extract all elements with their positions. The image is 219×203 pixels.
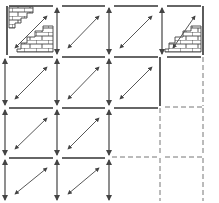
tile-r2-c3 [109, 57, 160, 106]
brick-wall-bottom-right [165, 26, 201, 52]
double-headed-diagonal-arrow-icon [68, 16, 99, 48]
double-headed-diagonal-arrow-icon [68, 168, 99, 194]
double-headed-diagonal-arrow-icon [15, 168, 47, 194]
tile-r3-c3 [109, 108, 160, 157]
tile-r3-c4 [165, 108, 203, 157]
tile-r4-c2 [57, 158, 105, 200]
tile-r2-c1 [5, 57, 53, 105]
tile-grid-diagram [0, 0, 219, 203]
tile-r2-c4 [165, 57, 203, 107]
tile-r1-c1 [7, 6, 53, 55]
tile-r1-c2 [57, 6, 105, 54]
tile-r2-c2 [57, 57, 105, 105]
tile-r3-c1 [5, 108, 53, 155]
tile-r1-c3 [109, 6, 158, 54]
brick-wall-top-left [9, 7, 33, 28]
double-headed-diagonal-arrow-icon [120, 16, 152, 48]
tile-r4-c1 [5, 158, 53, 200]
double-headed-diagonal-arrow-icon [68, 67, 99, 99]
double-headed-diagonal-arrow-icon [15, 118, 47, 149]
double-headed-diagonal-arrow-icon [120, 67, 152, 99]
tile-r4-c3 [109, 158, 160, 201]
double-headed-diagonal-arrow-icon [15, 67, 47, 99]
brick-wall-bottom-right [17, 26, 53, 52]
double-headed-diagonal-arrow-icon [68, 118, 99, 149]
tile-r1-c4 [162, 6, 203, 55]
tile-r3-c2 [57, 108, 105, 155]
